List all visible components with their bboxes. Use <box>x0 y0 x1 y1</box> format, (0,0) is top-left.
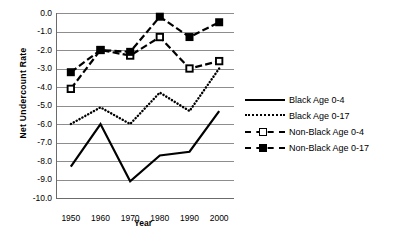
y-tick-label: -9.0 <box>6 175 52 184</box>
legend-label: Non-Black Age 0-4 <box>287 127 364 137</box>
legend-label: Black Age 0-17 <box>287 111 350 121</box>
series-marker <box>97 46 105 54</box>
y-tick-label: -6.0 <box>6 120 52 129</box>
y-tick-label: -8.0 <box>6 157 52 166</box>
legend-item: Non-Black Age 0-17 <box>243 140 401 156</box>
series-marker <box>157 34 163 40</box>
legend-item: Black Age 0-17 <box>243 108 401 124</box>
series-marker <box>186 33 194 41</box>
dotted-line-key <box>243 110 287 122</box>
series-line <box>71 37 219 89</box>
series-marker <box>156 13 164 21</box>
y-tick-label: -3.0 <box>6 64 52 73</box>
series-marker <box>68 86 74 92</box>
x-tick-label: 2000 <box>199 214 239 223</box>
y-tick-label: -1.0 <box>6 27 52 36</box>
y-tick-label: -10.0 <box>6 194 52 203</box>
dashed-open-square-key <box>243 126 287 138</box>
chart-legend: Black Age 0-4 Black Age 0-17 Non-Black A… <box>243 92 401 156</box>
series-marker <box>216 58 222 64</box>
plot-area: 0.0-1.0-2.0-3.0-4.0-5.0-6.0-7.0-8.0-9.0-… <box>56 13 234 198</box>
series-marker <box>126 48 134 56</box>
series-line <box>71 111 219 181</box>
chart-figure: Net Undercount Rate Year 0.0-1.0-2.0-3.0… <box>0 0 402 242</box>
legend-label: Non-Black Age 0-17 <box>287 143 369 153</box>
series-marker <box>215 18 223 26</box>
dashed-filled-square-key <box>243 142 287 154</box>
data-series-layer <box>56 13 234 198</box>
y-tick-label: -4.0 <box>6 83 52 92</box>
series-marker <box>67 68 75 76</box>
series-marker <box>186 65 192 71</box>
series-line <box>71 17 219 72</box>
legend-item: Non-Black Age 0-4 <box>243 124 401 140</box>
legend-label: Black Age 0-4 <box>287 95 345 105</box>
y-tick-label: 0.0 <box>6 9 52 18</box>
y-tick-label: -7.0 <box>6 138 52 147</box>
legend-item: Black Age 0-4 <box>243 92 401 108</box>
series-line <box>71 69 219 125</box>
gridline <box>56 198 234 199</box>
solid-line-key <box>243 94 287 106</box>
y-tick-label: -5.0 <box>6 101 52 110</box>
y-tick-label: -2.0 <box>6 46 52 55</box>
